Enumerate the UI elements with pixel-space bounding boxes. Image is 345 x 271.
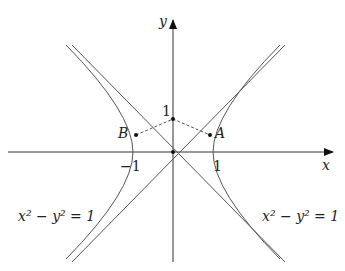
label-A: A xyxy=(215,126,225,140)
hyperbola-diagram: y x −1 1 1 B A x² − y² = 1 x² − y² = 1 xyxy=(0,0,345,271)
tick-x-neg1: −1 xyxy=(120,159,141,173)
y-axis-label: y xyxy=(159,14,167,28)
tick-y-1: 1 xyxy=(162,104,171,118)
equation-right: x² − y² = 1 xyxy=(262,209,339,223)
point-y1 xyxy=(171,117,175,121)
point-A xyxy=(208,133,212,137)
point-B xyxy=(134,133,138,137)
equation-left: x² − y² = 1 xyxy=(18,209,95,223)
tick-x-1: 1 xyxy=(213,159,222,173)
x-axis-label: x xyxy=(322,158,330,172)
label-B: B xyxy=(118,126,128,140)
origin-point xyxy=(171,150,175,154)
diagram-canvas xyxy=(0,0,345,271)
